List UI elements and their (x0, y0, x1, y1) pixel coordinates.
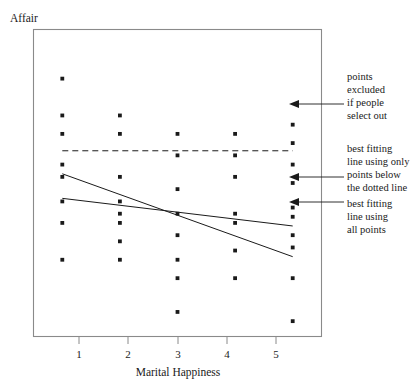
data-point (118, 212, 122, 216)
data-point (291, 246, 295, 250)
x-tick-label-2: 2 (125, 348, 131, 360)
data-point (233, 132, 237, 136)
x-axis-ticks (79, 337, 276, 344)
annotation-fit-below-line-3: points below (347, 169, 401, 180)
annotation-excluded-points-line-1: points (347, 71, 373, 82)
data-point (233, 276, 237, 280)
data-point (60, 175, 64, 179)
data-point (291, 233, 295, 237)
data-point (233, 175, 237, 179)
x-axis-title: Marital Happiness (136, 366, 221, 379)
data-point (60, 200, 64, 204)
data-point (176, 233, 180, 237)
leader-arrow-fit-below (289, 173, 299, 181)
data-point (118, 114, 122, 118)
annotation-fit-all-line-2: line using (347, 211, 389, 222)
data-point (233, 153, 237, 157)
data-point (60, 77, 64, 81)
data-point (60, 163, 64, 167)
annotation-excluded-points-line-4: select out (347, 110, 387, 121)
data-point (176, 132, 180, 136)
chart-page: Affair 1 2 3 4 5 Marital Happiness (0, 0, 419, 387)
data-point (291, 215, 295, 219)
data-point (291, 141, 295, 145)
annotation-fit-all-line-1: best fitting (347, 198, 393, 209)
leader-arrow-fit-all (289, 198, 299, 206)
data-point (60, 132, 64, 136)
data-point (291, 276, 295, 280)
annotation-fit-below-line-2: line using only (347, 156, 410, 167)
x-tick-label-4: 4 (224, 348, 230, 360)
data-point (60, 221, 64, 225)
data-point (118, 175, 122, 179)
data-point (176, 187, 180, 191)
data-point (176, 258, 180, 262)
data-point (176, 310, 180, 314)
annotation-fit-all-points: best fitting line using all points (347, 198, 393, 235)
annotation-excluded-points-line-3: if people (347, 97, 384, 108)
x-axis-tick-labels: 1 2 3 4 5 (76, 348, 279, 360)
data-point (118, 200, 122, 204)
data-point (60, 258, 64, 262)
data-point (291, 123, 295, 127)
annotation-fit-below-line-4: the dotted line (347, 182, 407, 193)
data-point (118, 221, 122, 225)
annotation-excluded-points: points excluded if people select out (347, 71, 387, 121)
data-point (176, 276, 180, 280)
annotation-excluded-points-line-2: excluded (347, 84, 386, 95)
annotation-leaders (289, 100, 344, 206)
x-tick-label-5: 5 (273, 348, 279, 360)
data-point (291, 206, 295, 210)
data-points-layer (60, 77, 294, 323)
best-fit-line-below-threshold (62, 198, 292, 226)
data-point (233, 221, 237, 225)
best-fit-line-all-points (62, 174, 292, 257)
leader-arrow-excluded-points (289, 100, 299, 108)
data-point (118, 132, 122, 136)
plot-frame (34, 30, 322, 337)
scatter-plot-figure: Affair 1 2 3 4 5 Marital Happiness (0, 0, 419, 387)
annotation-fit-below-threshold: best fitting line using only points belo… (347, 143, 410, 193)
data-point (233, 212, 237, 216)
data-point (176, 153, 180, 157)
annotation-fit-all-line-3: all points (347, 224, 386, 235)
y-axis-title: Affair (10, 12, 38, 24)
annotation-fit-below-line-1: best fitting (347, 143, 393, 154)
data-point (118, 239, 122, 243)
data-point (291, 319, 295, 323)
data-point (291, 181, 295, 185)
data-point (233, 249, 237, 253)
data-point (291, 163, 295, 167)
x-tick-label-1: 1 (76, 348, 82, 360)
data-point (118, 258, 122, 262)
x-tick-label-3: 3 (175, 348, 181, 360)
data-point (60, 114, 64, 118)
